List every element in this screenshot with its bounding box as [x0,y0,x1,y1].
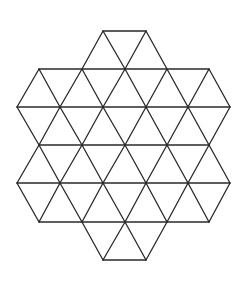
triangle-edge [82,69,103,107]
triangle-edges [17,31,230,260]
triangle-edge [125,222,146,260]
triangle-edge [82,183,103,222]
triangle-edge [103,222,125,260]
triangle-edge [39,69,60,107]
triangle-lattice-figure [0,0,245,281]
triangle-edge [82,31,103,69]
triangle-edge [125,183,146,222]
triangle-edge [188,107,209,145]
triangle-edge [39,145,60,183]
triangle-edge [39,107,60,145]
triangle-edge [103,183,125,222]
triangle-edge [125,69,146,107]
triangle-edge [82,107,103,145]
triangle-edge [146,222,167,260]
triangle-edge [188,69,209,107]
triangle-edge [60,69,82,107]
triangle-edge [209,145,230,183]
triangle-edge [17,183,39,222]
triangle-edge [60,107,82,145]
triangle-edge [188,145,209,183]
triangle-edge [125,145,146,183]
triangle-edge [82,222,103,260]
triangle-edge [103,107,125,145]
triangle-edge [146,107,167,145]
triangle-edge [17,69,39,107]
triangle-edge [146,183,167,222]
triangle-edge [82,145,103,183]
triangle-edge [103,31,125,69]
triangle-edge [146,145,167,183]
triangle-edge [60,145,82,183]
triangle-edge [103,69,125,107]
triangle-edge [103,145,125,183]
triangle-edge [39,183,60,222]
triangle-edge [60,183,82,222]
triangle-edge [209,69,230,107]
triangle-edge [146,31,167,69]
triangle-edge [125,31,146,69]
triangle-edge [146,69,167,107]
triangle-edge [167,107,188,145]
triangle-edge [125,107,146,145]
triangle-edge [209,183,230,222]
triangle-edge [167,69,188,107]
triangle-edge [17,107,39,145]
triangle-edge [17,145,39,183]
triangle-edge [167,183,188,222]
triangle-edge [188,183,209,222]
triangle-edge [167,145,188,183]
triangle-edge [209,107,230,145]
